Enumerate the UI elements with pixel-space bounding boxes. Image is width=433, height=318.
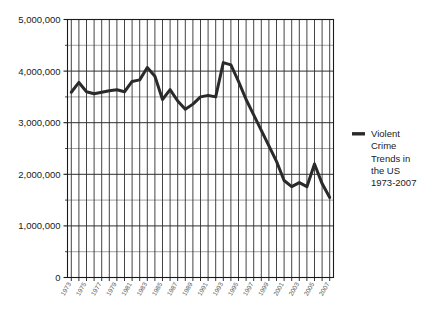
legend-label-line: 1973-2007: [371, 177, 416, 188]
legend-label-line: Trends in: [371, 153, 410, 164]
legend-label-line: Crime: [371, 140, 396, 151]
chart-background: [0, 0, 433, 318]
chart-container: 01,000,0002,000,0003,000,0004,000,0005,0…: [0, 0, 433, 318]
y-axis-label: 4,000,000: [18, 66, 60, 77]
y-axis-label: 3,000,000: [18, 117, 60, 128]
y-axis-label: 0: [55, 272, 60, 283]
line-chart-figure: 01,000,0002,000,0003,000,0004,000,0005,0…: [0, 0, 433, 318]
y-axis-label: 2,000,000: [18, 169, 60, 180]
legend-label-line: the US: [371, 165, 400, 176]
legend-label-line: Violent: [371, 128, 400, 139]
y-axis-label: 5,000,000: [18, 14, 60, 25]
y-axis-label: 1,000,000: [18, 220, 60, 231]
